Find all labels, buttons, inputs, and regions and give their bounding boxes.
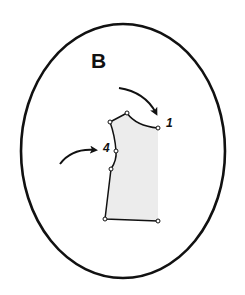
point-shoulder-top bbox=[125, 111, 129, 115]
diagram-canvas bbox=[0, 0, 245, 295]
point-bottom-left bbox=[103, 217, 107, 221]
arrow-to-point-1-icon bbox=[119, 88, 156, 113]
point-4-armhole bbox=[114, 149, 118, 153]
point-neck-left bbox=[108, 120, 112, 124]
panel-label: B bbox=[91, 50, 106, 71]
point-label-4: 4 bbox=[103, 142, 110, 154]
point-bottom-right bbox=[156, 219, 160, 223]
arrow-to-point-4-icon bbox=[60, 150, 95, 164]
point-1-neckline bbox=[156, 126, 160, 130]
point-lower-armhole bbox=[109, 167, 113, 171]
point-label-1: 1 bbox=[166, 117, 173, 129]
